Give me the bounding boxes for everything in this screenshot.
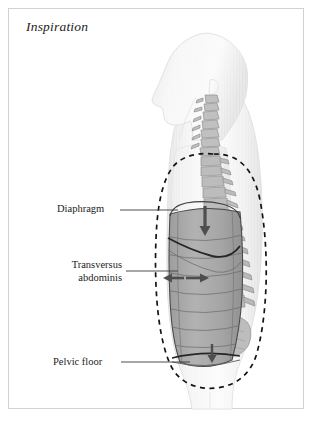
anatomy-illustration — [0, 0, 316, 421]
figure-title: Inspiration — [26, 19, 88, 35]
figure-root: Inspiration Diaphragm Transversus abdomi… — [0, 0, 316, 421]
label-pelvic-floor: Pelvic floor — [53, 356, 102, 369]
label-diaphragm: Diaphragm — [57, 203, 104, 216]
label-transversus-abdominis: Transversus abdominis — [46, 259, 122, 284]
